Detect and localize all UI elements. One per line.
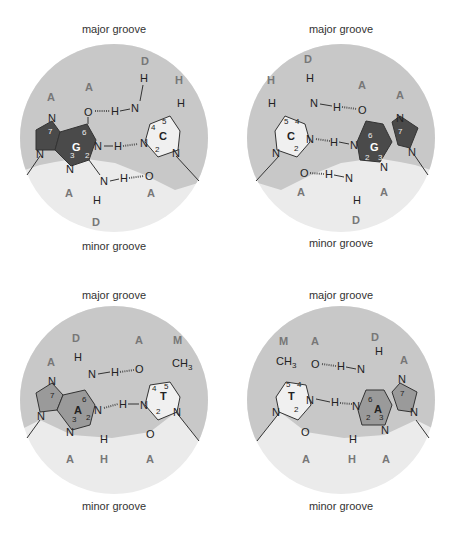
atom-h: H xyxy=(74,351,82,363)
atom-h: H xyxy=(93,194,101,206)
major-code: M xyxy=(279,335,288,347)
position-2: 2 xyxy=(294,405,299,414)
atom-n2: N xyxy=(100,175,108,187)
major-code: D xyxy=(371,331,379,343)
position-5: 5 xyxy=(162,117,167,126)
position-7: 7 xyxy=(50,391,55,400)
atom-h: H xyxy=(119,398,127,410)
atom-o4: O xyxy=(135,363,144,375)
atom-n7: N xyxy=(396,112,404,124)
atom-n7: N xyxy=(48,112,56,124)
atom-o2: O xyxy=(146,428,155,440)
atom-o6: O xyxy=(84,106,93,118)
minor-code: A xyxy=(302,453,310,465)
atom-h: H xyxy=(353,194,361,206)
base-letter-c: C xyxy=(159,130,167,142)
base-letter-t: T xyxy=(160,390,167,402)
major-code: A xyxy=(400,354,408,366)
minor-code: A xyxy=(297,186,305,198)
atom-n3: N xyxy=(306,133,314,145)
minor-code: A xyxy=(66,453,74,465)
position-7: 7 xyxy=(400,389,405,398)
atom-n9: N xyxy=(36,148,44,160)
atom-n6: N xyxy=(88,368,96,380)
minor-groove-label: minor groove xyxy=(82,500,146,512)
atom-n1: N xyxy=(172,147,180,159)
minor-code: A xyxy=(380,186,388,198)
position-2: 2 xyxy=(155,145,160,154)
major-code: H xyxy=(267,74,275,86)
atom-h2: H xyxy=(100,433,108,445)
major-code: A xyxy=(47,91,55,103)
position-6: 6 xyxy=(82,128,87,137)
atom-n9: N xyxy=(37,410,45,422)
atom-n4: N xyxy=(310,97,318,109)
atom-h: H xyxy=(331,396,339,408)
panel-cg: major groove H N H N N O 5 4 2 C H O H H… xyxy=(228,0,456,267)
major-code: A xyxy=(396,89,404,101)
atom-o2: O xyxy=(145,170,154,182)
position-2: 2 xyxy=(156,407,161,416)
minor-code: A xyxy=(382,453,390,465)
position-6: 6 xyxy=(368,395,373,404)
atom-h: H xyxy=(120,172,128,184)
position-2: 2 xyxy=(294,144,299,153)
major-groove-label: major groove xyxy=(309,23,373,35)
atom-n3: N xyxy=(66,163,74,175)
position-4: 4 xyxy=(151,123,156,132)
position-2: 2 xyxy=(365,153,370,162)
major-code: D xyxy=(72,332,80,344)
position-3: 3 xyxy=(378,153,383,162)
major-code: A xyxy=(47,356,55,368)
atom-n3: N xyxy=(66,426,74,438)
atom-n1: N xyxy=(173,406,181,418)
atom-h: H xyxy=(111,105,119,117)
atom-n9: N xyxy=(408,146,416,158)
position-6: 6 xyxy=(368,131,373,140)
major-code: A xyxy=(135,334,143,346)
major-code: D xyxy=(304,53,312,65)
base-letter-a: A xyxy=(374,403,382,415)
position-5: 5 xyxy=(286,380,291,389)
atom-o4: O xyxy=(311,358,320,370)
atom-h2: H xyxy=(349,433,357,445)
major-code: D xyxy=(141,55,149,67)
atom-n4: N xyxy=(131,102,139,114)
atom-n3: N xyxy=(140,399,148,411)
atom-n7: N xyxy=(398,373,406,385)
atom-o6: O xyxy=(358,104,367,116)
minor-groove-label: minor groove xyxy=(309,237,373,249)
position-7: 7 xyxy=(48,127,53,136)
minor-code: H xyxy=(100,453,108,465)
position-7: 7 xyxy=(398,127,403,136)
major-groove-label: major groove xyxy=(82,23,146,35)
atom-n1: N xyxy=(350,139,358,151)
major-code: A xyxy=(85,81,93,93)
atom-h: H xyxy=(337,360,345,372)
atom-h: H xyxy=(375,345,383,357)
minor-code: D xyxy=(92,216,100,228)
minor-groove-label: minor groove xyxy=(82,240,146,252)
atom-n3: N xyxy=(306,394,314,406)
major-code: A xyxy=(311,335,319,347)
atom-n9: N xyxy=(410,406,418,418)
position-2: 2 xyxy=(85,151,90,160)
position-4: 4 xyxy=(295,117,300,126)
position-2: 2 xyxy=(86,413,91,422)
atom-h: H xyxy=(325,168,333,180)
atom-n7: N xyxy=(48,375,56,387)
minor-code: A xyxy=(146,453,154,465)
atom-n3: N xyxy=(380,161,388,173)
panel-at: major groove N N N N N H H 7 6 3 2 A H O… xyxy=(0,267,228,534)
atom-n3: N xyxy=(381,424,389,436)
atom-h: H xyxy=(330,136,338,148)
atom-n6: N xyxy=(357,363,365,375)
major-code: H xyxy=(175,74,183,86)
major-code: M xyxy=(173,334,182,346)
atom-h: H xyxy=(114,140,122,152)
atom-o2: O xyxy=(300,167,309,179)
position-4: 4 xyxy=(297,380,302,389)
atom-n1: N xyxy=(352,400,360,412)
base-letter-t: T xyxy=(288,390,295,402)
atom-h5: H xyxy=(268,97,276,109)
